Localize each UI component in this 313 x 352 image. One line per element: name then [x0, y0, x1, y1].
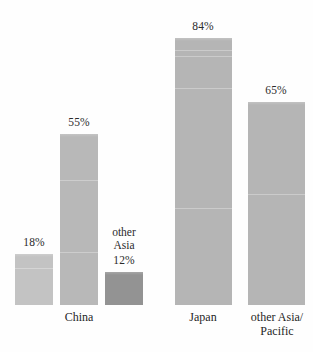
bar-band: [15, 268, 53, 269]
bar-band: [60, 180, 98, 181]
bar-sheen: [60, 134, 98, 305]
bar-other-asia-12[interactable]: [105, 272, 143, 305]
bar-china-18[interactable]: [15, 254, 53, 305]
bar-value-label-other-asia-12: 12%: [95, 254, 153, 267]
bar-band: [60, 252, 98, 253]
bar-value-label-japan-84: 84%: [174, 20, 232, 33]
bar-band: [175, 208, 232, 209]
bar-band: [175, 56, 232, 57]
bar-sheen: [15, 254, 53, 305]
bar-band: [175, 50, 232, 51]
bar-japan-84[interactable]: [175, 38, 232, 305]
axis-label-other-asia-pacific: other Asia/ Pacific: [242, 310, 312, 338]
bar-sheen: [175, 38, 232, 305]
bar-sheen: [248, 102, 305, 305]
bar-band: [175, 88, 232, 89]
bar-band: [248, 194, 305, 195]
bar-other-asia-pacific-65[interactable]: [248, 102, 305, 305]
bar-note-other-asia: other Asia: [96, 226, 152, 251]
bar-value-label-other-asia-pacific-65: 65%: [247, 84, 305, 97]
bar-value-label-china-55: 55%: [50, 116, 108, 129]
bar-value-label-china-18: 18%: [5, 236, 63, 249]
bar-sheen: [105, 272, 143, 305]
axis-label-china: China: [50, 310, 108, 324]
axis-label-japan: Japan: [174, 310, 232, 324]
bar-china-55[interactable]: [60, 134, 98, 305]
bar-chart-plot-area: 18% 55% other Asia 12% 84% 65%: [0, 0, 313, 352]
chart-page: 18% 55% other Asia 12% 84% 65%: [0, 0, 313, 352]
